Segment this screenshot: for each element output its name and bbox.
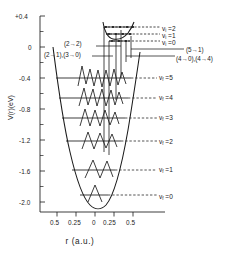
y-tick--2.0: -2.0 (19, 199, 30, 206)
level-label-vf5-value: =5 (164, 74, 173, 81)
x-tick-0: 0 (92, 219, 96, 226)
level-label-vf2-value: =2 (164, 138, 173, 145)
y-tick-0: 0 (28, 44, 32, 51)
figure-canvas (0, 0, 235, 262)
level-label-vf3: vf =3 (159, 114, 173, 121)
upper-potential-curve (103, 22, 134, 39)
level-label-vf2-subscript: f (162, 141, 163, 146)
potential-energy-diagram: +0.4 0 -0.4 -0.8 -1.2 -1.6 -2.0 V(r)(eV)… (0, 0, 235, 262)
y-axis-label: V(r)(eV) (7, 85, 14, 131)
level-label-connectors (108, 78, 157, 195)
x-axis-label: r (a.u.) (0, 237, 160, 246)
level-label-vf5-subscript: f (162, 77, 163, 82)
wavefunction-vf3 (80, 109, 119, 126)
wavefunction-vf2 (82, 132, 117, 149)
level-label-vf1-subscript: f (162, 169, 163, 174)
level-label-vf4: vf =4 (159, 94, 173, 101)
level-label-vf1: vf =1 (159, 166, 173, 173)
level-label-vi2: vi =2 (162, 25, 176, 32)
x-tick--0.5: 0.5 (50, 219, 59, 226)
y-major-ticks (40, 16, 45, 202)
level-label-vf1-value: =1 (164, 166, 173, 173)
x-tick-0.5: 0.5 (126, 219, 135, 226)
y-tick--1.2: -1.2 (19, 137, 30, 144)
level-label-vi1-value: =1 (166, 32, 175, 39)
level-label-vf4-subscript: f (162, 97, 163, 102)
wavefunction-vf1 (85, 160, 113, 178)
wavefunction-vf0 (88, 185, 102, 202)
annotation-leaders (92, 46, 184, 56)
level-label-vf5: vf =5 (159, 74, 173, 81)
y-tick--0.4: -0.4 (19, 75, 30, 82)
annotation-transition-2-2: (2→2) (64, 40, 82, 47)
y-tick-0.4: +0.4 (15, 13, 28, 20)
x-tick-0.25: 0.25 (103, 219, 116, 226)
level-label-vf0-subscript: f (162, 196, 163, 201)
level-label-vf2: vf =2 (159, 138, 173, 145)
level-label-vf3-value: =3 (164, 114, 173, 121)
y-tick--0.8: -0.8 (19, 106, 30, 113)
level-label-vf4-value: =4 (164, 94, 173, 101)
level-label-vf0-value: =0 (164, 193, 173, 200)
lower-potential-curve (53, 47, 140, 209)
x-ticks (57, 212, 133, 217)
final-state-wavefunctions (78, 66, 126, 202)
level-label-vf3-subscript: f (162, 117, 163, 122)
y-tick--1.6: -1.6 (19, 168, 30, 175)
annotation-transition-2-1-3-0: (2→1),(3→0) (44, 51, 81, 58)
level-label-vf0: vf =0 (159, 193, 173, 200)
level-label-vi0-value: =0 (166, 39, 175, 46)
level-label-vi1: vi =1 (162, 32, 176, 39)
level-label-vi0: vi =0 (162, 39, 176, 46)
annotation-transition-5-1: (5→1) (186, 46, 204, 53)
annotation-transition-4-0-4-4: (4→0),(4→4) (176, 55, 213, 62)
wavefunction-vf5 (78, 66, 126, 87)
level-label-vi2-value: =2 (166, 25, 175, 32)
x-tick--0.25: 0.25 (68, 219, 81, 226)
